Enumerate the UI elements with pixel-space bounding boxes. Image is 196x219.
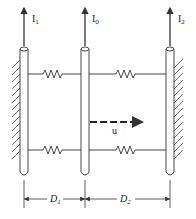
spring-upper-right: [89, 70, 166, 78]
rod-left: [20, 47, 28, 175]
rod-right: [166, 47, 174, 175]
dimension-extension-lines: [24, 180, 170, 208]
current-label-1: I1: [32, 13, 39, 26]
spring-lower-left: [28, 146, 81, 154]
spring-upper-left: [28, 70, 81, 78]
dimension-label-d1: D1: [49, 193, 61, 206]
rod-spring-diagram: I1 I0 I2 u D1 D2: [0, 0, 196, 219]
velocity-label: u: [112, 125, 117, 136]
current-arrows: [24, 8, 170, 46]
rod-middle: [81, 47, 89, 175]
left-wall-hatching: [12, 58, 20, 159]
dimension-label-d2: D2: [119, 193, 131, 206]
right-wall-hatching: [174, 59, 183, 159]
current-label-0: I0: [92, 13, 99, 26]
current-label-2: I2: [178, 13, 185, 26]
spring-lower-right: [89, 146, 166, 154]
